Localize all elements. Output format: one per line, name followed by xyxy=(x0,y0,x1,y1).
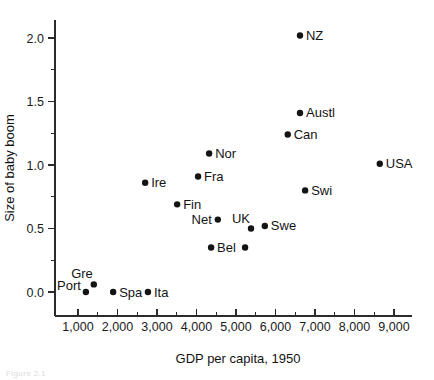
x-tick-label: 4,000 xyxy=(181,320,212,334)
data-point-label: Net xyxy=(192,212,213,227)
figure-caption-faint: Figure 2.1 xyxy=(6,369,46,378)
data-point-marker xyxy=(110,289,116,295)
data-point-marker xyxy=(208,244,214,250)
data-point-marker xyxy=(91,281,97,287)
data-points: NZAustlCanUSANorFraSwiIreFinNetSweUKBelG… xyxy=(57,28,413,300)
plot-canvas: 1,0002,0003,0004,0005,0006,0007,0008,000… xyxy=(0,0,434,380)
y-tick-label: 0.0 xyxy=(27,286,44,300)
data-point-label: Port xyxy=(57,278,81,293)
axes xyxy=(55,20,412,316)
y-tick-label: 1.0 xyxy=(27,159,44,173)
scatter-plot-figure: 1,0002,0003,0004,0005,0006,0007,0008,000… xyxy=(0,0,434,380)
data-point-label: Swi xyxy=(311,183,332,198)
x-tick-label: 9,000 xyxy=(378,320,409,334)
data-point-label: NZ xyxy=(306,28,323,43)
data-point-label: Austl xyxy=(306,105,335,120)
x-tick-label: 5,000 xyxy=(220,320,251,334)
y-axis-ticks: 0.00.51.01.52.0 xyxy=(27,32,55,300)
data-point-label: Spa xyxy=(119,285,143,300)
x-tick-label: 3,000 xyxy=(141,320,172,334)
x-tick-label: 2,000 xyxy=(102,320,133,334)
data-point-marker xyxy=(302,187,308,193)
data-point-label: Can xyxy=(294,127,318,142)
data-point-label: Ita xyxy=(154,285,169,300)
y-tick-label: 2.0 xyxy=(27,32,44,46)
x-tick-label: 1,000 xyxy=(62,320,93,334)
data-point-marker xyxy=(142,180,148,186)
data-point-marker xyxy=(262,223,268,229)
x-tick-label: 7,000 xyxy=(299,320,330,334)
data-point-marker xyxy=(285,131,291,137)
x-tick-label: 8,000 xyxy=(339,320,370,334)
data-point-marker xyxy=(242,244,248,250)
data-point-marker xyxy=(83,289,89,295)
x-axis-ticks: 1,0002,0003,0004,0005,0006,0007,0008,000… xyxy=(62,309,409,334)
y-tick-label: 1.5 xyxy=(27,95,44,109)
x-tick-label: 6,000 xyxy=(260,320,291,334)
data-point-marker xyxy=(195,173,201,179)
data-point-label: Fin xyxy=(183,197,201,212)
data-point-marker xyxy=(297,110,303,116)
y-tick-label: 0.5 xyxy=(27,222,44,236)
data-point-label: Swe xyxy=(271,218,296,233)
data-point-marker xyxy=(248,225,254,231)
data-point-marker xyxy=(206,150,212,156)
data-point-marker xyxy=(377,161,383,167)
data-point-label: Bel xyxy=(217,240,236,255)
x-axis-title: GDP per capita, 1950 xyxy=(176,351,301,366)
data-point-marker xyxy=(297,32,303,38)
y-axis-title: Size of baby boom xyxy=(2,114,17,222)
data-point-label: USA xyxy=(386,156,413,171)
data-point-label: Fra xyxy=(204,169,224,184)
data-point-label: Nor xyxy=(215,146,237,161)
data-point-marker xyxy=(215,216,221,222)
data-point-label: Ire xyxy=(151,175,166,190)
data-point-marker xyxy=(174,201,180,207)
data-point-label: UK xyxy=(232,211,250,226)
data-point-marker xyxy=(145,289,151,295)
